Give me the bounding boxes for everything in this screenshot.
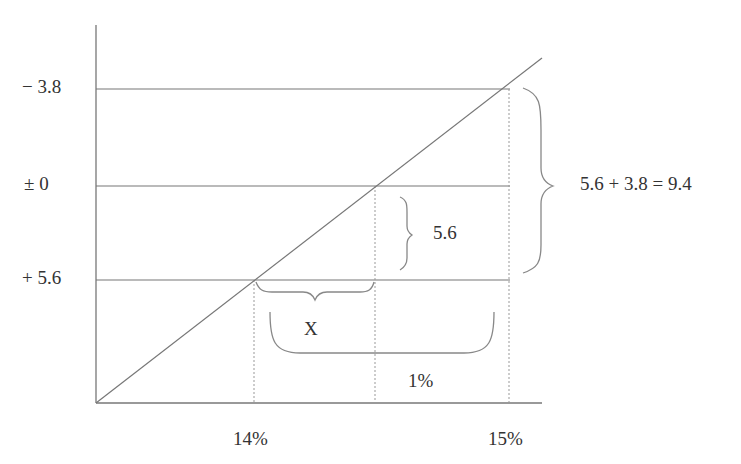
interpolation-diagram xyxy=(0,0,741,464)
total-span-label: 5.6 + 3.8 = 9.4 xyxy=(580,173,692,195)
interval-label: 1% xyxy=(408,370,433,392)
x-label-15pct: 15% xyxy=(488,428,523,450)
part-span-label: 5.6 xyxy=(433,222,457,244)
x-label-14pct: 14% xyxy=(233,428,268,450)
x-unknown-label: X xyxy=(304,318,318,340)
y-label-zero: ± 0 xyxy=(24,173,49,195)
cropped-header-text xyxy=(10,0,310,2)
brace-total xyxy=(523,88,553,273)
y-label-minus-3-8: − 3.8 xyxy=(22,76,61,98)
y-label-plus-5-6: + 5.6 xyxy=(22,267,61,289)
brace-part xyxy=(400,197,412,270)
brace-x xyxy=(256,282,374,300)
